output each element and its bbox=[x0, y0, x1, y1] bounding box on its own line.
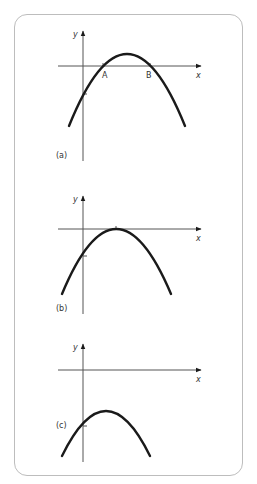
panel-label: (c) bbox=[56, 421, 67, 430]
parabola-curve bbox=[62, 229, 171, 294]
panel-label: (a) bbox=[56, 151, 67, 160]
panel-label: (b) bbox=[56, 304, 67, 313]
parabola-diagrams: y x A B (a) y x (b) y x (c) bbox=[0, 0, 257, 484]
x-axis-label: x bbox=[195, 234, 201, 243]
panel-b: y x (b) bbox=[56, 195, 201, 314]
panel-a: y x A B (a) bbox=[56, 30, 201, 161]
parabola-curve bbox=[69, 54, 185, 126]
x-axis-label: x bbox=[195, 71, 201, 80]
x-axis-label: x bbox=[195, 375, 201, 384]
y-axis-label: y bbox=[72, 30, 78, 39]
point-b-label: B bbox=[146, 71, 152, 80]
point-a-label: A bbox=[102, 71, 108, 80]
y-axis-label: y bbox=[72, 195, 78, 204]
panel-c: y x (c) bbox=[56, 343, 201, 462]
y-axis-label: y bbox=[72, 343, 78, 352]
parabola-curve bbox=[62, 411, 150, 456]
